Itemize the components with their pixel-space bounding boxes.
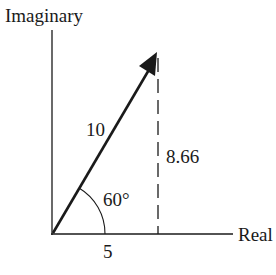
imaginary-axis-label: Imaginary [5,6,83,25]
angle-label: 60° [103,190,130,209]
imaginary-component-label: 8.66 [166,147,199,166]
real-axis-label: Real [238,225,273,244]
vector-shaft [53,68,150,233]
angle-arc [79,188,105,234]
phasor-diagram [0,0,276,275]
real-component-label: 5 [103,242,113,261]
magnitude-label: 10 [86,120,105,139]
